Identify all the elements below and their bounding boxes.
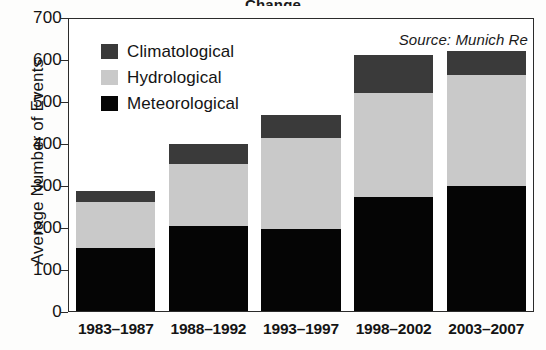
bar-segment-climatological bbox=[76, 191, 155, 202]
legend-swatch-hydrological bbox=[101, 70, 118, 85]
y-tick-label: 400 bbox=[6, 134, 62, 154]
y-tick-label: 0 bbox=[6, 302, 62, 322]
bar-segment-climatological bbox=[354, 55, 433, 93]
x-tick-label: 1983–1987 bbox=[70, 320, 163, 338]
cropped-title-fragment: Change bbox=[0, 0, 546, 6]
y-tick-mark bbox=[60, 270, 68, 271]
y-tick-label: 500 bbox=[6, 92, 62, 112]
bar-segment-climatological bbox=[261, 115, 340, 138]
legend-item-climatological: Climatological bbox=[101, 38, 239, 64]
y-tick-mark bbox=[60, 228, 68, 229]
legend-swatch-meteorological bbox=[101, 96, 118, 111]
bar-stack bbox=[354, 17, 433, 311]
legend-swatch-climatological bbox=[101, 44, 118, 59]
legend-label-meteorological: Meteorological bbox=[127, 95, 239, 112]
bar-segment-hydrological bbox=[447, 75, 526, 186]
bar-segment-meteorological bbox=[169, 226, 248, 311]
bar-segment-meteorological bbox=[76, 248, 155, 311]
bar-segment-hydrological bbox=[354, 93, 433, 198]
x-tick-label: 1998–2002 bbox=[347, 320, 440, 338]
bar-segment-meteorological bbox=[261, 229, 340, 311]
bar-segment-climatological bbox=[169, 144, 248, 164]
y-tick-label: 300 bbox=[6, 176, 62, 196]
y-tick-mark bbox=[60, 60, 68, 61]
bar-segment-hydrological bbox=[261, 138, 340, 229]
x-tick-label: 1993–1997 bbox=[255, 320, 348, 338]
y-tick-mark bbox=[60, 186, 68, 187]
y-tick-mark bbox=[60, 102, 68, 103]
legend-item-meteorological: Meteorological bbox=[101, 90, 239, 116]
bar-segment-climatological bbox=[447, 51, 526, 75]
bar-segment-meteorological bbox=[447, 186, 526, 311]
x-tick-label: 2003–2007 bbox=[440, 320, 533, 338]
bar-segment-hydrological bbox=[169, 164, 248, 226]
y-tick-label: 600 bbox=[6, 50, 62, 70]
y-tick-mark bbox=[60, 18, 68, 19]
bar-stack bbox=[447, 17, 526, 311]
source-note: Source: Munich Re bbox=[399, 31, 528, 48]
legend: Climatological Hydrological Meteorologic… bbox=[101, 38, 239, 116]
legend-item-hydrological: Hydrological bbox=[101, 64, 239, 90]
y-tick-mark bbox=[60, 312, 68, 313]
chart-screenshot: Change Average Number of Events 01002003… bbox=[0, 0, 546, 350]
y-tick-label: 200 bbox=[6, 218, 62, 238]
legend-label-climatological: Climatological bbox=[127, 43, 234, 60]
bar-stack bbox=[261, 17, 340, 311]
legend-label-hydrological: Hydrological bbox=[127, 69, 222, 86]
y-tick-label: 700 bbox=[6, 8, 62, 28]
bar-segment-hydrological bbox=[76, 202, 155, 248]
bar-segment-meteorological bbox=[354, 197, 433, 311]
x-tick-label: 1988–1992 bbox=[162, 320, 255, 338]
y-tick-label: 100 bbox=[6, 260, 62, 280]
y-tick-mark bbox=[60, 144, 68, 145]
